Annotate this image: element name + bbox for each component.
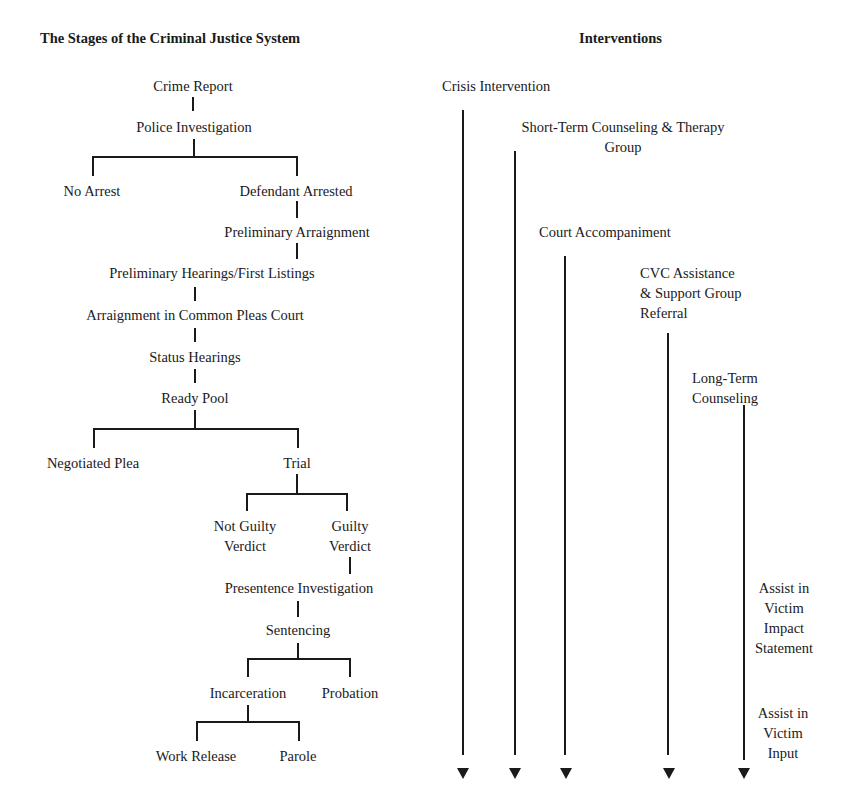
connector xyxy=(247,658,249,677)
node-arraignment-common-pleas: Arraignment in Common Pleas Court xyxy=(86,305,303,325)
down-arrow-icon xyxy=(509,768,521,779)
impact-line3: Impact xyxy=(755,618,813,638)
stages-heading: The Stages of the Criminal Justice Syste… xyxy=(40,30,300,47)
cvc-line2: & Support Group xyxy=(640,283,742,303)
connector xyxy=(247,705,249,721)
connector xyxy=(297,428,299,448)
connector xyxy=(193,139,195,156)
connector xyxy=(194,369,196,383)
node-preliminary-arraignment: Preliminary Arraignment xyxy=(224,222,369,242)
connector xyxy=(93,428,95,448)
connector xyxy=(194,410,196,428)
connector xyxy=(296,474,298,494)
connector xyxy=(298,721,300,741)
cvc-line1: CVC Assistance xyxy=(640,263,742,283)
branch-connector xyxy=(92,156,298,158)
not-guilty-line1: Not Guilty xyxy=(214,516,276,536)
input-line2: Victim xyxy=(758,723,808,743)
node-trial: Trial xyxy=(283,453,311,473)
intervention-long-term-counseling: Long-Term Counseling xyxy=(692,368,758,408)
connector xyxy=(194,328,196,342)
input-line3: Input xyxy=(758,743,808,763)
connector xyxy=(296,156,298,176)
node-negotiated-plea: Negotiated Plea xyxy=(47,453,139,473)
court-duration-line xyxy=(564,256,566,755)
node-defendant-arrested: Defendant Arrested xyxy=(239,181,352,201)
long-term-line2: Counseling xyxy=(692,388,758,408)
node-no-arrest: No Arrest xyxy=(64,181,121,201)
node-police-investigation: Police Investigation xyxy=(136,117,252,137)
long-term-line1: Long-Term xyxy=(692,368,758,388)
intervention-victim-input: Assist in Victim Input xyxy=(758,703,808,763)
intervention-court-accompaniment: Court Accompaniment xyxy=(539,222,671,242)
short-term-line1: Short-Term Counseling & Therapy xyxy=(522,117,725,137)
connector xyxy=(296,243,298,259)
intervention-short-term-counseling: Short-Term Counseling & Therapy Group xyxy=(522,117,725,157)
node-status-hearings: Status Hearings xyxy=(149,347,240,367)
branch-connector xyxy=(196,721,300,723)
short-term-line2: Group xyxy=(522,137,725,157)
not-guilty-line2: Verdict xyxy=(214,536,276,556)
connector xyxy=(297,601,299,617)
connector xyxy=(349,658,351,677)
interventions-heading: Interventions xyxy=(579,30,662,47)
node-probation: Probation xyxy=(322,683,378,703)
intervention-crisis: Crisis Intervention xyxy=(442,76,550,96)
down-arrow-icon xyxy=(457,768,469,779)
connector xyxy=(196,721,198,741)
short-term-duration-line xyxy=(514,151,516,755)
connector xyxy=(192,97,194,111)
node-presentence-investigation: Presentence Investigation xyxy=(225,578,374,598)
intervention-victim-impact-statement: Assist in Victim Impact Statement xyxy=(755,578,813,658)
node-guilty-verdict: Guilty Verdict xyxy=(329,516,371,556)
down-arrow-icon xyxy=(738,768,750,779)
node-preliminary-hearings: Preliminary Hearings/First Listings xyxy=(109,263,314,283)
connector xyxy=(349,557,351,574)
branch-connector xyxy=(93,428,299,430)
node-work-release: Work Release xyxy=(156,746,237,766)
connector xyxy=(246,493,248,511)
node-sentencing: Sentencing xyxy=(266,620,330,640)
intervention-cvc-assistance: CVC Assistance & Support Group Referral xyxy=(640,263,742,323)
node-ready-pool: Ready Pool xyxy=(161,388,228,408)
connector xyxy=(346,493,348,511)
connector xyxy=(194,287,196,301)
node-parole: Parole xyxy=(279,746,316,766)
node-incarceration: Incarceration xyxy=(210,683,286,703)
cvc-duration-line xyxy=(667,333,669,755)
impact-line1: Assist in xyxy=(755,578,813,598)
node-not-guilty-verdict: Not Guilty Verdict xyxy=(214,516,276,556)
guilty-line1: Guilty xyxy=(329,516,371,536)
cvc-line3: Referral xyxy=(640,303,742,323)
impact-line2: Victim xyxy=(755,598,813,618)
branch-connector xyxy=(247,658,351,660)
down-arrow-icon xyxy=(663,768,675,779)
node-crime-report: Crime Report xyxy=(153,76,232,96)
connector xyxy=(92,156,94,176)
guilty-line2: Verdict xyxy=(329,536,371,556)
crisis-duration-line xyxy=(462,110,464,755)
down-arrow-icon xyxy=(560,768,572,779)
connector xyxy=(296,201,298,218)
branch-connector xyxy=(246,493,348,495)
impact-line4: Statement xyxy=(755,638,813,658)
long-term-duration-line xyxy=(743,405,745,760)
input-line1: Assist in xyxy=(758,703,808,723)
connector xyxy=(297,643,299,659)
